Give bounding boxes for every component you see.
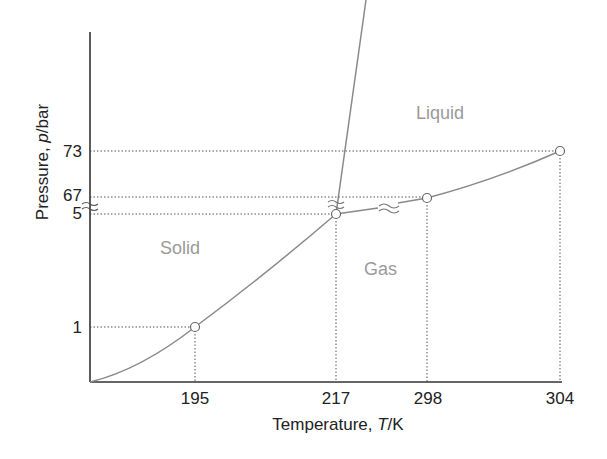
x-tick-195: 195: [181, 389, 209, 408]
region-gas: Gas: [364, 259, 397, 279]
vapour-curve-b: [398, 151, 560, 203]
y-tick-67: 67: [63, 186, 82, 205]
phase-diagram-chart: Liquid Solid Gas 73 67 5 1 195 217 298 3…: [0, 0, 607, 459]
y-tick-5: 5: [73, 204, 82, 223]
point-triple: [332, 210, 341, 219]
y-tick-1: 1: [73, 318, 82, 337]
sublimation-curve: [90, 214, 336, 382]
x-axis-title: Temperature, T/K: [272, 415, 404, 434]
region-solid: Solid: [160, 238, 200, 258]
vapour-curve-a: [336, 208, 378, 214]
point-critical: [556, 147, 565, 156]
region-liquid: Liquid: [416, 103, 464, 123]
phase-boundaries: [90, 0, 560, 382]
guide-lines: [90, 151, 560, 382]
x-tick-304: 304: [546, 389, 574, 408]
x-tick-298: 298: [414, 389, 442, 408]
point-298-67: [423, 194, 432, 203]
melting-curve: [336, 0, 366, 214]
x-tick-217: 217: [322, 389, 350, 408]
y-tick-73: 73: [63, 142, 82, 161]
marked-points: [191, 147, 565, 332]
point-195-1: [191, 323, 200, 332]
y-axis-title: Pressure, p/bar: [33, 104, 52, 221]
